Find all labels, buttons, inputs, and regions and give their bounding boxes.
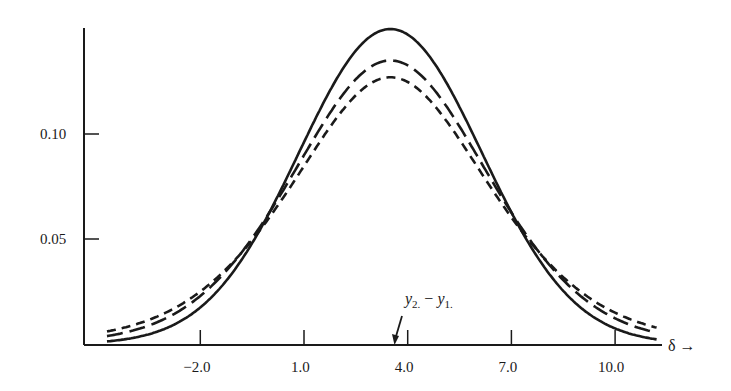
solid-curve <box>107 29 657 341</box>
y-tick-label: 0.10 <box>40 126 66 142</box>
x-axis-label: δ → <box>668 337 696 354</box>
short-dash-curve <box>107 77 657 331</box>
x-ticks: −2.01.04.07.010.0 <box>183 330 624 375</box>
annotation-arrow-shaft <box>396 316 403 338</box>
x-tick-label: 4.0 <box>395 359 414 375</box>
x-tick-label: −2.0 <box>183 359 210 375</box>
difference-annotation: y2. − y1. <box>392 290 453 345</box>
x-tick-label: 1.0 <box>291 359 310 375</box>
annotation-label: y2. − y1. <box>403 290 453 310</box>
x-tick-label: 7.0 <box>498 359 517 375</box>
y-tick-label: 0.05 <box>40 231 66 247</box>
x-tick-label: 10.0 <box>598 359 624 375</box>
long-dash-curve <box>107 61 657 337</box>
density-chart: −2.01.04.07.010.0 0.050.10 δ → y2. − y1. <box>0 0 731 391</box>
curves <box>107 29 657 341</box>
arrow-head-icon <box>392 334 399 345</box>
y-ticks: 0.050.10 <box>40 126 99 247</box>
